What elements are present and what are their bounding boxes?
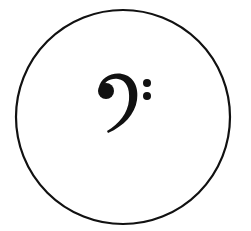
bass-clef-icon (98, 74, 151, 133)
bass-clef-circle-graphic (0, 0, 251, 231)
icon-canvas: Bass clef (F clef) (0, 0, 251, 231)
